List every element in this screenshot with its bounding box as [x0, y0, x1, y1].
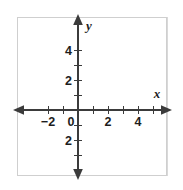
coordinate-plane-figure: −2024422 x y	[0, 0, 183, 190]
y-axis-tick-label: 4	[65, 44, 72, 58]
y-axis-label: y	[84, 18, 92, 33]
x-axis-tick-label: 0	[68, 115, 75, 129]
x-axis-label: x	[153, 86, 161, 101]
x-axis-tick-label: −2	[41, 115, 55, 129]
y-axis-tick-label: 2	[65, 134, 72, 148]
y-axis-tick-label: 2	[65, 74, 72, 88]
coordinate-plane-svg: −2024422 x y	[0, 0, 183, 190]
grid-frame	[18, 18, 167, 176]
x-axis-tick-label: 2	[105, 115, 112, 129]
x-axis-tick-label: 4	[135, 115, 142, 129]
